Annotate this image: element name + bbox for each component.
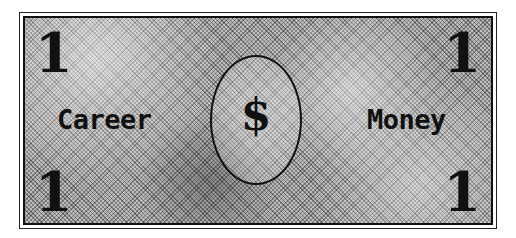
denomination-top-right: 1 — [443, 26, 481, 80]
dollar-sign-icon: $ — [212, 93, 300, 137]
center-seal: $ — [210, 55, 302, 185]
money-label: Money — [367, 104, 446, 135]
bill-face: 1 1 1 1 Career $ Money — [23, 16, 493, 225]
denomination-top-left: 1 — [35, 26, 73, 80]
denomination-bottom-left: 1 — [35, 165, 73, 219]
career-money-bill: 1 1 1 1 Career $ Money — [19, 12, 497, 229]
denomination-bottom-right: 1 — [443, 165, 481, 219]
career-label: Career — [57, 104, 152, 135]
